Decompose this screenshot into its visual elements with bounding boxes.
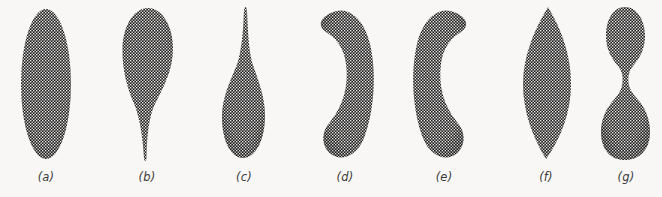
caption-d: (d) (313, 170, 377, 184)
panel-b (118, 0, 176, 165)
figure-canvas: (a) (b) (c) (d) (e) (0, 0, 662, 197)
caption-c: (c) (218, 170, 270, 184)
panel-f (513, 0, 581, 165)
shape-dumbbell (600, 0, 652, 165)
shape-teardrop-down (118, 0, 176, 165)
caption-g: (g) (600, 170, 652, 184)
shape-lens-vesica (513, 0, 581, 165)
shape-teardrop-up (218, 0, 270, 165)
panel-d (308, 0, 378, 165)
shape-crescent-right (308, 0, 378, 165)
caption-e: (e) (413, 170, 475, 184)
panel-c (218, 0, 270, 165)
caption-b: (b) (118, 170, 176, 184)
panel-e (409, 0, 479, 165)
shape-crescent-left (409, 0, 479, 165)
caption-a: (a) (15, 170, 77, 184)
panel-g (600, 0, 652, 165)
caption-f: (f) (513, 170, 579, 184)
shape-ellipse (15, 0, 77, 165)
panel-a (15, 0, 77, 165)
